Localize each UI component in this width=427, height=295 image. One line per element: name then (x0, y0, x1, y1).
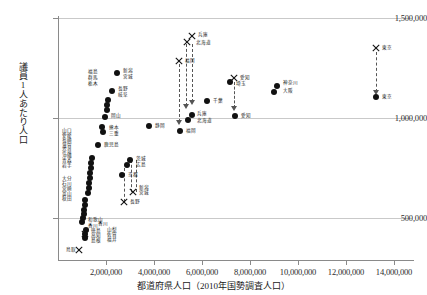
x-tick-mark-12000000 (346, 260, 347, 265)
gridline-500000 (58, 218, 412, 219)
marker-dot-kyoto (119, 172, 125, 178)
x-tick-mark-8000000 (250, 260, 251, 265)
marker-dot-kagoshima (95, 142, 101, 148)
x-axis-line (58, 260, 414, 261)
label-osaka: 大阪 (283, 89, 293, 94)
marker-dot-aichi (232, 113, 238, 119)
label-fukui: 福井 (107, 238, 117, 243)
label-x-miyagi: 宮城 (139, 191, 149, 196)
label-x-fukuoka: 福岡 (185, 59, 195, 64)
label-dot-hokkaido: 北海道 (197, 119, 212, 124)
label-tochigi: 栃木 (88, 82, 98, 87)
marker-x-hokkaido (183, 38, 191, 46)
label-tottori: 鳥取 (66, 248, 76, 253)
label-dot-aichi: 愛知 (241, 114, 251, 119)
x-tick-mark-10000000 (298, 260, 299, 265)
marker-dot-mie (100, 129, 106, 135)
label-dot-tokyo: 東京 (382, 95, 392, 100)
y-tick-mark-500000 (53, 218, 58, 219)
x-tick-mark-2000000 (106, 260, 107, 265)
label-kagoshima: 鹿児島 (104, 143, 119, 148)
plot-area (58, 18, 412, 258)
marker-x-fukuoka (175, 57, 183, 65)
label-group-mid-upper: 山口愛媛長崎滋賀奈良沖縄青森岩手 (62, 128, 72, 168)
label-chiba: 千葉 (213, 99, 223, 104)
marker-dot-wakayama (79, 219, 85, 225)
marker-x-tokyo (372, 44, 380, 52)
label-miyagi: 宮城 (123, 75, 133, 80)
marker-dot-chiba (204, 98, 210, 104)
marker-dot-niigata (114, 70, 120, 76)
x-tick-mark-6000000 (202, 260, 203, 265)
label-okayama: 岡山 (111, 114, 121, 119)
label-shizuoka: 静岡 (155, 124, 165, 129)
label-mie: 三重 (109, 132, 119, 137)
label-dot-fukuoka: 福岡 (186, 129, 196, 134)
x-tick-mark-14000000 (394, 260, 395, 265)
marker-dot-iwate (85, 190, 91, 196)
y-tick-label-1000000: 1,000,000 (371, 113, 427, 123)
label-kagawa: 香川 (98, 222, 108, 227)
label-dot-hyogo: 兵庫 (197, 112, 207, 117)
x-tick-label-14000000: 14,000,000 (364, 267, 424, 277)
label-hiroshima: 広島 (136, 163, 146, 168)
marker-dot-nagano (109, 88, 115, 94)
y-tick-mark-1000000 (53, 118, 58, 119)
chart-title (0, 0, 427, 3)
marker-dot-tokyo (373, 94, 379, 100)
label-x-hyogo: 兵庫 (198, 33, 208, 38)
marker-dot-hokkaido (185, 117, 191, 123)
label-x-tokyo: 東京 (382, 46, 392, 51)
marker-dot-hiroshima (124, 162, 130, 168)
label-saitama: 埼玉 (236, 82, 246, 87)
marker-dot-shizuoka (146, 123, 152, 129)
marker-dot-saitama (227, 79, 233, 85)
y-axis-title: 議員1人あたり人口 (14, 62, 28, 144)
marker-x-nagano (120, 198, 128, 206)
y-axis-line (58, 16, 59, 260)
label-gifu: 岐阜 (118, 93, 128, 98)
marker-dot-okayama (102, 114, 108, 120)
label-kagawa-top: 香川 (88, 224, 98, 229)
y-tick-label-1500000: 1,500,000 (371, 13, 427, 23)
label-group-mid-lower: 大分石川宮崎富山秋田 (62, 176, 72, 201)
marker-dot-fukuoka (177, 128, 183, 134)
marker-x-tottori (75, 246, 83, 254)
marker-dot-tochigi (104, 107, 110, 113)
marker-dot-osaka (271, 89, 277, 95)
y-tick-mark-1500000 (53, 18, 58, 19)
label-x-hokkaido: 北海道 (196, 41, 211, 46)
label-kyoto: 京都 (128, 173, 138, 178)
label-x-nagano: 長野 (130, 200, 140, 205)
label-shimane: 島根 (91, 239, 101, 244)
x-tick-mark-4000000 (154, 260, 155, 265)
marker-x-miyagi (129, 188, 137, 196)
marker-dot-fukui (82, 235, 88, 241)
scatter-chart: 1,500,000 1,000,000 500,000 2,000,000 4,… (0, 0, 427, 295)
label-kanagawa: 神奈川 (283, 81, 298, 86)
marker-dot-kanagawa (274, 83, 280, 89)
gridline-1500000 (58, 18, 412, 19)
y-tick-label-500000: 500,000 (371, 213, 427, 223)
x-axis-title: 都道府県人口（2010年国勢調査人口） (0, 279, 427, 292)
